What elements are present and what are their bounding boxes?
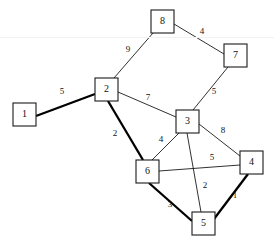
edge-5-4 xyxy=(214,174,248,219)
node-label-1: 1 xyxy=(22,108,27,119)
node-label-2: 2 xyxy=(104,83,109,94)
edge-6-4 xyxy=(159,165,240,171)
edge-weight-2-6: 2 xyxy=(113,128,118,138)
node-label-7: 7 xyxy=(233,49,238,60)
node-1[interactable]: 1 xyxy=(13,103,36,126)
edge-weight-3-5: 2 xyxy=(203,180,208,190)
edge-7-3 xyxy=(193,67,228,110)
node-3[interactable]: 3 xyxy=(176,110,199,133)
edge-weight-7-3: 5 xyxy=(212,86,217,96)
edge-2-8 xyxy=(114,33,153,78)
edge-weight-3-6: 4 xyxy=(159,134,164,144)
node-8[interactable]: 8 xyxy=(151,10,174,33)
node-label-4: 4 xyxy=(249,156,254,167)
node-label-3: 3 xyxy=(185,115,190,126)
node-label-5: 5 xyxy=(201,217,206,228)
edge-weight-2-3: 7 xyxy=(146,92,151,102)
edge-weight-2-8: 9 xyxy=(126,44,131,54)
edge-weight-6-4: 5 xyxy=(210,152,215,162)
faint-rule-0 xyxy=(0,37,274,38)
edge-3-5 xyxy=(187,133,201,212)
node-label-8: 8 xyxy=(160,15,165,26)
graph-diagram: 12345678 594572485231 xyxy=(0,0,274,249)
node-4[interactable]: 4 xyxy=(240,151,263,174)
edges-layer xyxy=(36,24,248,221)
edge-weight-5-4: 1 xyxy=(233,190,238,200)
edge-weight-6-5: 3 xyxy=(168,199,173,209)
edge-weight-3-4: 8 xyxy=(221,125,226,135)
node-2[interactable]: 2 xyxy=(95,78,118,101)
node-7[interactable]: 7 xyxy=(224,44,247,67)
node-5[interactable]: 5 xyxy=(192,212,215,235)
node-label-6: 6 xyxy=(145,165,150,176)
nodes-layer: 12345678 xyxy=(13,10,263,235)
edge-3-4 xyxy=(199,124,240,156)
edge-weight-1-2: 5 xyxy=(60,86,65,96)
edge-weight-8-7: 4 xyxy=(200,26,205,36)
node-6[interactable]: 6 xyxy=(136,160,159,183)
edge-1-2 xyxy=(36,94,95,116)
edge-3-6 xyxy=(152,133,179,160)
